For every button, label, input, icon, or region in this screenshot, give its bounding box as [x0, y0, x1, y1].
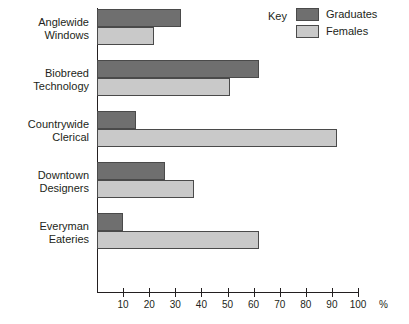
x-axis-tick-50 — [228, 288, 229, 297]
plot-area: 102030405060708090100 % AnglewideWindows… — [0, 0, 409, 324]
x-axis-tick-90 — [332, 288, 333, 297]
x-axis-tick-30 — [175, 288, 176, 297]
x-axis-tick-label-90: 90 — [326, 299, 337, 311]
category-label-line1: Biobreed — [33, 67, 89, 80]
category-label-2: BiobreedTechnology — [33, 67, 89, 93]
category-label-5: EverymanEateries — [39, 220, 89, 246]
bar-females-1 — [97, 27, 154, 45]
x-axis-tick-70 — [280, 288, 281, 297]
category-label-line1: Downtown — [38, 169, 89, 182]
x-axis-tick-label-100: 100 — [350, 299, 367, 311]
category-label-line1: Anglewide — [38, 16, 89, 29]
x-axis-tick-label-50: 50 — [222, 299, 233, 311]
y-axis-line — [97, 8, 98, 293]
x-axis-tick-60 — [254, 288, 255, 297]
category-label-line1: Everyman — [39, 220, 89, 233]
bar-females-5 — [97, 231, 259, 249]
category-label-4: DowntownDesigners — [38, 169, 89, 195]
x-axis-tick-label-30: 30 — [170, 299, 181, 311]
category-label-line1: Countrywide — [28, 118, 89, 131]
x-axis-tick-80 — [306, 288, 307, 297]
x-axis-tick-label-80: 80 — [300, 299, 311, 311]
x-axis-tick-label-40: 40 — [196, 299, 207, 311]
category-label-line2: Clerical — [28, 131, 89, 144]
category-label-line2: Technology — [33, 80, 89, 93]
category-label-line2: Designers — [38, 182, 89, 195]
bar-females-4 — [97, 180, 194, 198]
x-axis-tick-label-70: 70 — [274, 299, 285, 311]
bar-females-3 — [97, 129, 337, 147]
bar-chart: Key Graduates Females 102030405060708090… — [0, 0, 409, 324]
category-label-1: AnglewideWindows — [38, 16, 89, 42]
x-axis-tick-label-60: 60 — [248, 299, 259, 311]
bar-graduates-2 — [97, 60, 259, 78]
category-label-line2: Eateries — [39, 233, 89, 246]
bar-females-2 — [97, 78, 230, 96]
bar-graduates-5 — [97, 213, 123, 231]
x-axis-tick-20 — [149, 288, 150, 297]
x-axis-tick-label-20: 20 — [144, 299, 155, 311]
x-axis-unit-label: % — [379, 299, 388, 311]
x-axis-tick-label-10: 10 — [118, 299, 129, 311]
category-label-3: CountrywideClerical — [28, 118, 89, 144]
x-axis-tick-10 — [123, 288, 124, 297]
bar-graduates-3 — [97, 111, 136, 129]
category-label-line2: Windows — [38, 29, 89, 42]
bar-graduates-1 — [97, 9, 181, 27]
x-axis-tick-40 — [201, 288, 202, 297]
bar-graduates-4 — [97, 162, 165, 180]
x-axis-tick-100 — [358, 288, 359, 297]
